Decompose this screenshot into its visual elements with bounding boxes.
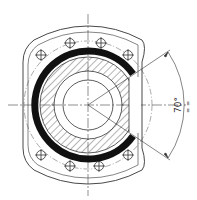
side-mark: = = xyxy=(184,101,191,113)
bolt-hole-icon xyxy=(35,49,47,61)
bolt-hole-icon xyxy=(35,149,47,161)
technical-drawing: 70° = = xyxy=(0,0,197,200)
bolt-hole-icon xyxy=(64,160,76,172)
bolt-hole-icon xyxy=(122,149,134,161)
bolt-hole-icon xyxy=(122,49,134,61)
bolt-hole-icon xyxy=(64,37,76,49)
angle-label: 70° xyxy=(173,97,183,113)
bolt-hole-icon xyxy=(95,37,107,49)
